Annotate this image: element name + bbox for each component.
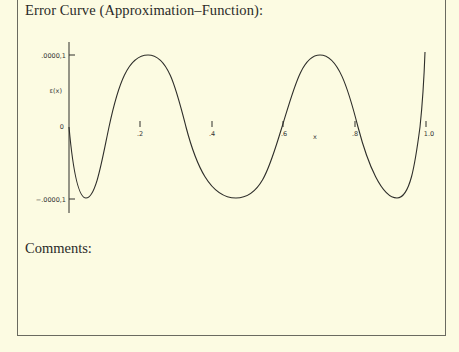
- error-curve: [69, 52, 425, 198]
- x-tick-0.8: .8: [352, 130, 358, 138]
- y-tick-min: −.0000,1: [36, 196, 66, 204]
- x-tick-0.4: .4: [209, 130, 215, 138]
- x-axis-label: x: [313, 133, 317, 141]
- y-tick-max: .0000,1: [41, 52, 66, 60]
- y-axis-label: ε(x): [50, 87, 62, 95]
- x-tick-0.2: .2: [137, 130, 143, 138]
- x-tick-0.6: .6: [281, 130, 287, 138]
- x-tick-1.0: 1.0: [424, 130, 434, 138]
- y-tick-zero: 0: [60, 123, 64, 131]
- error-curve-chart: .0000,1 0 −.0000,1 ε(x) .2 .4 .6 .8 1.0 …: [0, 0, 459, 352]
- comments-label: Comments:: [25, 240, 92, 257]
